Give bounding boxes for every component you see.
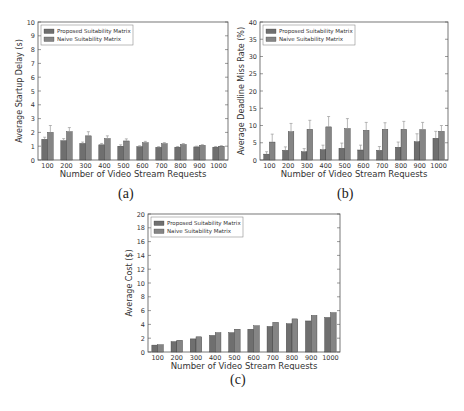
chart-average-cost: 0246810121416182010020030040050060070080… (110, 205, 350, 370)
bar-naive (401, 129, 407, 160)
bar-naive (345, 129, 351, 160)
bar-naive (67, 132, 73, 160)
bar-proposed (305, 321, 311, 352)
bar-proposed (325, 318, 331, 353)
y-tick-label: 20 (249, 88, 257, 96)
legend-label: Naive Suitability Matrix (167, 228, 232, 235)
bar-proposed (137, 147, 143, 160)
legend-label: Naive Suitability Matrix (279, 36, 344, 43)
y-tick-label: 14 (137, 252, 145, 260)
x-tick-label: 1000 (210, 162, 227, 170)
x-axis-label: Number of Video Stream Requests (60, 169, 207, 179)
y-tick-label: 6 (31, 74, 35, 82)
y-tick-label: 6 (141, 307, 145, 315)
y-tick-label: 0 (31, 157, 35, 165)
bar-naive (234, 329, 240, 352)
legend-swatch (154, 229, 164, 234)
y-tick-label: 8 (31, 46, 35, 54)
y-tick-label: 9 (31, 32, 35, 40)
bar-naive (330, 313, 336, 352)
bar-naive (219, 146, 225, 160)
x-tick-label: 1000 (322, 354, 339, 362)
x-tick-label: 100 (263, 162, 275, 170)
chart-startup-delay: 0123456789101002003004005006007008009001… (0, 0, 232, 180)
bar-naive (215, 333, 221, 352)
caption-b: (b) (337, 186, 353, 202)
legend-swatch (266, 37, 276, 42)
bar-naive (200, 145, 206, 160)
y-axis-label: Average Cost ($) (125, 249, 134, 316)
bar-proposed (377, 150, 383, 160)
bar-proposed (267, 326, 273, 352)
y-tick-label: 2 (141, 335, 145, 343)
legend-label: Proposed Suitability Matrix (279, 28, 353, 35)
bar-proposed (42, 139, 48, 160)
bar-naive (439, 131, 445, 160)
bar-naive (292, 319, 298, 352)
y-tick-label: 40 (249, 19, 257, 27)
legend-label: Proposed Suitability Matrix (167, 220, 241, 227)
bar-proposed (209, 335, 215, 352)
bar-proposed (283, 150, 289, 160)
bar-proposed (213, 147, 219, 160)
bar-proposed (194, 147, 200, 160)
legend: Proposed Suitability MatrixNaive Suitabi… (41, 25, 133, 45)
bar-naive (86, 136, 92, 160)
bar-naive (158, 345, 164, 352)
legend: Proposed Suitability MatrixNaive Suitabi… (151, 217, 243, 237)
bar-naive (196, 337, 202, 352)
legend-label: Proposed Suitability Matrix (57, 28, 131, 35)
bar-proposed (175, 147, 181, 160)
y-axis-label: Average Startup Delay (s) (15, 39, 24, 143)
bar-proposed (264, 154, 270, 160)
x-axis-label: Number of Video Stream Requests (171, 361, 318, 370)
y-tick-label: 5 (253, 139, 257, 147)
x-tick-label: 1000 (430, 162, 447, 170)
legend-swatch (154, 221, 164, 226)
y-tick-label: 15 (249, 105, 257, 113)
y-tick-label: 10 (137, 280, 145, 288)
y-tick-label: 3 (31, 115, 35, 123)
x-axis-label: Number of Video Stream Requests (281, 169, 428, 179)
y-tick-label: 16 (137, 238, 145, 246)
bar-proposed (156, 147, 162, 160)
bar-proposed (414, 142, 420, 160)
y-tick-label: 4 (141, 321, 145, 329)
y-tick-label: 10 (27, 19, 35, 27)
y-tick-label: 1 (31, 143, 35, 151)
y-tick-label: 10 (249, 122, 257, 130)
bar-naive (269, 142, 275, 160)
bar-naive (162, 144, 168, 160)
deadline-miss-rate-bar-chart: 0510152025303540100200300400500600700800… (232, 0, 464, 180)
bar-proposed (229, 333, 235, 352)
bar-proposed (171, 342, 177, 352)
legend-label: Naive Suitability Matrix (57, 36, 122, 43)
y-tick-label: 0 (141, 349, 145, 357)
x-tick-label: 100 (41, 162, 53, 170)
caption-c: (c) (230, 372, 246, 388)
y-tick-label: 7 (31, 60, 35, 68)
y-tick-label: 20 (137, 211, 145, 219)
y-tick-label: 2 (31, 129, 35, 137)
bar-proposed (248, 329, 254, 352)
chart-deadline-miss-rate: 0510152025303540100200300400500600700800… (232, 0, 464, 180)
bar-naive (326, 127, 332, 160)
bar-proposed (395, 147, 401, 160)
bar-naive (363, 130, 369, 160)
y-tick-label: 5 (31, 88, 35, 96)
legend-swatch (44, 37, 54, 42)
bar-naive (48, 132, 54, 160)
legend-swatch (266, 29, 276, 34)
bar-proposed (190, 339, 196, 352)
average-cost-bar-chart: 0246810121416182010020030040050060070080… (110, 205, 350, 370)
startup-delay-bar-chart: 0123456789101002003004005006007008009001… (0, 0, 232, 180)
y-tick-label: 0 (253, 157, 257, 165)
y-tick-label: 25 (249, 70, 257, 78)
bar-naive (420, 130, 426, 160)
y-tick-label: 18 (137, 224, 145, 232)
bar-naive (382, 129, 388, 160)
bar-proposed (320, 150, 326, 160)
x-tick-label: 100 (151, 354, 163, 362)
caption-a: (a) (118, 186, 134, 202)
bar-naive (105, 139, 111, 160)
